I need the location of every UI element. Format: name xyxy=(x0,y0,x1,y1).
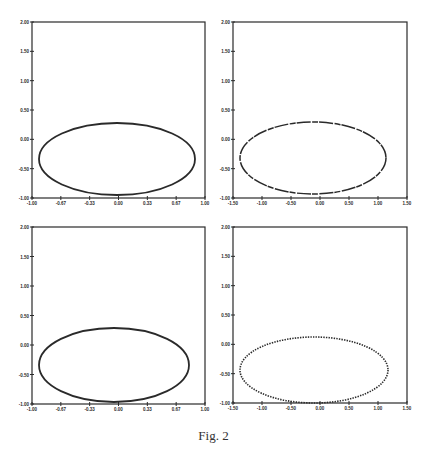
x-tick-label: -1.50 xyxy=(228,201,239,206)
y-tick-label: 1.00 xyxy=(20,79,29,84)
y-tick-label: 1.00 xyxy=(221,79,230,84)
plot-panel-top-right: 2.001.501.000.500.00-0.50-1.00-1.50-1.00… xyxy=(220,20,412,206)
y-tick-label: 0.00 xyxy=(20,137,29,142)
plot-panel-bottom-left: 2.001.501.000.500.00-0.50-1.00-1.00-0.67… xyxy=(19,225,210,412)
x-tick-label: 1.50 xyxy=(403,201,412,206)
x-tick-label: 0.00 xyxy=(114,201,123,206)
y-tick-label: 1.50 xyxy=(20,49,29,54)
plot-panel-top-left: 2.001.501.000.500.00-0.50-1.00-1.00-0.67… xyxy=(19,20,210,206)
x-tick-label: -0.67 xyxy=(56,407,67,412)
x-tick-label: 0.67 xyxy=(172,407,181,412)
y-tick-label: -0.50 xyxy=(220,372,231,377)
y-tick-label: 1.50 xyxy=(20,255,29,260)
y-tick-label: 1.50 xyxy=(221,254,230,259)
x-tick-label: 0.67 xyxy=(172,201,181,206)
x-tick-label: 0.33 xyxy=(143,201,152,206)
x-tick-label: 1.00 xyxy=(201,201,210,206)
plot-frame xyxy=(32,227,205,404)
y-tick-label: 0.00 xyxy=(221,137,230,142)
x-tick-label: -0.33 xyxy=(85,201,96,206)
y-tick-label: 2.00 xyxy=(20,20,29,25)
y-tick-label: 0.50 xyxy=(221,313,230,318)
x-tick-label: -1.50 xyxy=(228,406,239,411)
y-tick-label: 0.00 xyxy=(20,343,29,348)
y-tick-label: 2.00 xyxy=(221,225,230,230)
x-tick-label: 0.50 xyxy=(345,406,354,411)
figure-caption: Fig. 2 xyxy=(0,428,427,444)
plot-frame xyxy=(32,22,205,198)
plot-frame xyxy=(233,22,407,198)
plot-frame xyxy=(233,227,407,403)
x-tick-label: -1.00 xyxy=(257,406,268,411)
x-tick-label: 1.00 xyxy=(374,406,383,411)
y-tick-label: 1.00 xyxy=(221,284,230,289)
ellipse-curve xyxy=(240,337,388,403)
y-tick-label: 1.50 xyxy=(221,49,230,54)
y-tick-label: 0.50 xyxy=(221,108,230,113)
x-tick-label: -1.00 xyxy=(27,201,38,206)
y-tick-label: -0.50 xyxy=(19,373,30,378)
x-tick-label: -0.33 xyxy=(85,407,96,412)
x-tick-label: -0.50 xyxy=(286,406,297,411)
y-tick-label: 2.00 xyxy=(20,225,29,230)
x-tick-label: 0.00 xyxy=(316,406,325,411)
figure-canvas: 2.001.501.000.500.00-0.50-1.00-1.00-0.67… xyxy=(0,0,427,451)
x-tick-label: 0.00 xyxy=(316,201,325,206)
plot-panel-bottom-right: 2.001.501.000.500.00-0.50-1.00-1.50-1.00… xyxy=(220,225,412,411)
y-tick-label: 2.00 xyxy=(221,20,230,25)
y-tick-label: 1.00 xyxy=(20,284,29,289)
x-tick-label: 1.00 xyxy=(374,201,383,206)
ellipse-curve xyxy=(240,122,386,194)
ellipse-curve xyxy=(39,123,195,195)
x-tick-label: 0.33 xyxy=(143,407,152,412)
x-tick-label: -0.50 xyxy=(286,201,297,206)
y-tick-label: 0.00 xyxy=(221,342,230,347)
x-tick-label: -1.00 xyxy=(27,407,38,412)
ellipse-curve xyxy=(39,328,189,402)
y-tick-label: 0.50 xyxy=(20,108,29,113)
y-tick-label: 0.50 xyxy=(20,314,29,319)
x-tick-label: 1.00 xyxy=(201,407,210,412)
y-tick-label: -0.50 xyxy=(220,167,231,172)
x-tick-label: -0.67 xyxy=(56,201,67,206)
x-tick-label: -1.00 xyxy=(257,201,268,206)
y-tick-label: -0.50 xyxy=(19,167,30,172)
x-tick-label: 0.00 xyxy=(114,407,123,412)
x-tick-label: 0.50 xyxy=(345,201,354,206)
x-tick-label: 1.50 xyxy=(403,406,412,411)
